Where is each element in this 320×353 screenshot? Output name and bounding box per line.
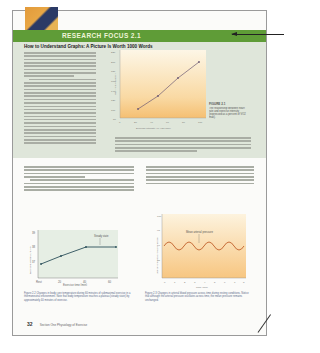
figure-2-1-caption-text: The relationship between heart rate and … xyxy=(209,107,249,119)
svg-text:39: 39 xyxy=(32,231,36,235)
svg-text:Mean arterial blood pressure (: Mean arterial blood pressure (mm Hg) xyxy=(156,237,158,274)
svg-text:1: 1 xyxy=(174,281,176,284)
svg-text:95: 95 xyxy=(157,229,160,232)
svg-text:Rest: Rest xyxy=(36,280,42,284)
svg-text:38: 38 xyxy=(32,245,36,249)
svg-text:60: 60 xyxy=(108,280,112,284)
figure-2-2-caption: Figure 2.2 Changes in body core temperat… xyxy=(24,292,132,302)
svg-text:Body core temperature (°C): Body core temperature (°C) xyxy=(29,246,31,274)
svg-text:40: 40 xyxy=(150,121,153,124)
mean-arterial-pressure-label: Mean arterial pressure xyxy=(186,230,213,234)
svg-text:5: 5 xyxy=(214,281,216,284)
svg-text:220: 220 xyxy=(111,51,116,54)
svg-text:80: 80 xyxy=(182,121,185,124)
svg-text:200: 200 xyxy=(111,61,116,64)
svg-text:80: 80 xyxy=(113,118,116,121)
svg-text:7: 7 xyxy=(234,281,236,284)
svg-text:0: 0 xyxy=(164,281,166,284)
svg-text:20: 20 xyxy=(58,280,62,284)
svg-text:Exercise intensity (% VO₂ max): Exercise intensity (% VO₂ max) xyxy=(136,127,171,130)
figure-2-1-chart: 220200180160 14012010080 020406080100 Ex… xyxy=(108,50,208,135)
svg-text:37: 37 xyxy=(32,260,36,264)
svg-text:Heart rate (beats/min): Heart rate (beats/min) xyxy=(114,72,116,95)
svg-text:100: 100 xyxy=(157,215,162,218)
section-label: Section One Physiology of Exercise xyxy=(40,323,88,327)
lower-right-text: vary around some "set" value, and thus h… xyxy=(146,166,254,186)
pointer-arrow-line xyxy=(232,34,284,35)
page-number: 32 xyxy=(27,321,33,327)
box-heading: How to Understand Graphs: A Picture Is W… xyxy=(24,44,153,49)
lower-left-text: conditions, and the term steady state is… xyxy=(24,166,134,193)
svg-text:Exercise time (min): Exercise time (min) xyxy=(63,283,87,286)
svg-text:Time (min): Time (min) xyxy=(196,286,208,289)
figure-2-2-chart: 393837 Rest204060 Exercise time (min) Bo… xyxy=(28,228,123,286)
svg-text:120: 120 xyxy=(111,99,116,102)
svg-text:0: 0 xyxy=(119,121,121,124)
svg-text:8: 8 xyxy=(243,281,245,284)
figure-2-3-chart: 100959085 01234 5678 Time (min) Mean art… xyxy=(152,214,252,302)
svg-text:4: 4 xyxy=(204,281,206,284)
banner-title: RESEARCH FOCUS 2.1 xyxy=(62,32,141,39)
svg-text:100: 100 xyxy=(198,121,203,124)
svg-text:2: 2 xyxy=(184,281,186,284)
svg-text:20: 20 xyxy=(134,121,137,124)
box-body-left: Throughout this book, we use line graphs… xyxy=(24,52,96,146)
svg-text:6: 6 xyxy=(224,281,226,284)
figure-2-3-caption: Figure 2.3 Changes in arterial blood pre… xyxy=(145,292,253,302)
steady-state-label: Steady state xyxy=(94,234,109,238)
box-body-right: rate is considered the dependent variabl… xyxy=(115,137,251,154)
figure-2-1-caption: FIGURE 2.1 The relationship between hear… xyxy=(209,103,249,119)
pointer-arrow-head-icon xyxy=(231,32,237,36)
page-footer: 32 Section One Physiology of Exercise xyxy=(27,321,87,327)
svg-text:180: 180 xyxy=(111,70,116,73)
svg-text:100: 100 xyxy=(111,109,116,112)
svg-text:60: 60 xyxy=(166,121,169,124)
svg-text:3: 3 xyxy=(194,281,196,284)
